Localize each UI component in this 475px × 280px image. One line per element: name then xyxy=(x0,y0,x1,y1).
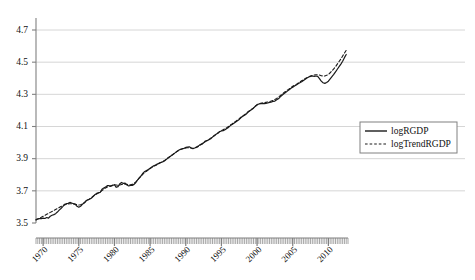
y-tick-label-1: 3.7 xyxy=(16,186,28,196)
y-tick-label-4: 4.3 xyxy=(16,89,28,99)
legend-label-logTrendRGDP: logTrendRGDP xyxy=(391,139,451,149)
chart-container: 3.53.73.94.14.34.54.7 197019751980198519… xyxy=(0,0,475,280)
x-tick-label-7: 2005 xyxy=(279,244,299,264)
x-tick-label-3: 1985 xyxy=(137,244,157,264)
x-tick-label-5: 1995 xyxy=(208,244,228,264)
series-group xyxy=(36,50,346,220)
y-tick-label-5: 4.5 xyxy=(16,57,28,67)
y-tick-label-2: 3.9 xyxy=(16,153,28,163)
x-tick-label-4: 1990 xyxy=(172,244,192,264)
y-tick-label-0: 3.5 xyxy=(16,218,28,228)
legend-label-logRGDP: logRGDP xyxy=(391,126,428,136)
x-tick-label-0: 1970 xyxy=(30,244,50,264)
chart-legend: logRGDPlogTrendRGDP xyxy=(360,122,457,153)
x-axis-group: 197019751980198519901995200020052010 xyxy=(30,238,348,264)
series-line-logRGDP xyxy=(36,54,346,219)
y-tick-label-3: 4.1 xyxy=(16,121,28,131)
y-axis-group: 3.53.73.94.14.34.54.7 xyxy=(16,18,36,228)
series-line-logTrendRGDP xyxy=(36,50,346,220)
x-tick-label-2: 1980 xyxy=(101,244,121,264)
gdp-trend-line-chart: 3.53.73.94.14.34.54.7 197019751980198519… xyxy=(0,0,475,280)
y-tick-label-6: 4.7 xyxy=(16,25,28,35)
x-tick-label-1: 1975 xyxy=(65,244,85,264)
x-tick-label-6: 2000 xyxy=(244,244,264,264)
x-tick-label-8: 2010 xyxy=(315,244,335,264)
